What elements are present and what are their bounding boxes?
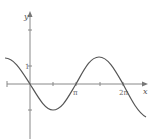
- x-axis-label: x: [143, 87, 148, 96]
- x-tick-label-pi: π: [73, 89, 78, 97]
- x-tick-label-2pi: 2π: [119, 89, 128, 97]
- y-tick-label-1: 1: [25, 63, 29, 71]
- x-axis-arrow-icon: [142, 82, 148, 87]
- function-graph: x π 2π y 1: [0, 0, 152, 139]
- y-axis-label: y: [23, 12, 29, 21]
- x-axis: x π 2π: [7, 81, 148, 97]
